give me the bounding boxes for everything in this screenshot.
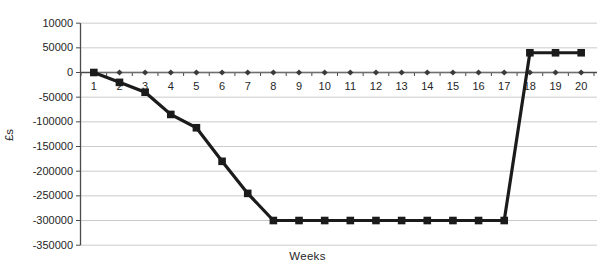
diamond-marker (219, 69, 225, 75)
svg-text:6: 6 (219, 80, 225, 92)
svg-text:4: 4 (168, 80, 174, 92)
svg-text:-350000: -350000 (33, 239, 73, 251)
chart-figure: 10000500000-50000-100000-150000-200000-2… (0, 0, 615, 278)
diamond-marker (475, 69, 481, 75)
x-axis-title: Weeks (0, 250, 615, 262)
svg-text:10000: 10000 (42, 17, 73, 29)
x-tick-labels: 1234567891011121314151617181920 (91, 80, 588, 92)
diamond-marker (373, 69, 379, 75)
square-marker (577, 49, 585, 57)
square-marker (347, 217, 355, 225)
svg-text:19: 19 (549, 80, 561, 92)
diamond-marker (450, 69, 456, 75)
diamond-marker (270, 69, 276, 75)
diamond-marker (142, 69, 148, 75)
svg-text:1: 1 (91, 80, 97, 92)
diamond-marker (424, 69, 430, 75)
square-marker (552, 49, 560, 57)
svg-text:-100000: -100000 (33, 115, 73, 127)
svg-text:12: 12 (370, 80, 382, 92)
svg-text:17: 17 (498, 80, 510, 92)
square-marker (116, 79, 124, 87)
diamond-marker (168, 69, 174, 75)
diamond-marker (322, 69, 328, 75)
svg-text:20: 20 (575, 80, 587, 92)
svg-text:16: 16 (472, 80, 484, 92)
svg-text:-250000: -250000 (33, 189, 73, 201)
svg-text:-300000: -300000 (33, 214, 73, 226)
square-marker (218, 158, 226, 166)
svg-text:14: 14 (421, 80, 433, 92)
square-marker (295, 217, 303, 225)
svg-text:8: 8 (270, 80, 276, 92)
square-marker (449, 217, 457, 225)
y-gridlines (81, 23, 597, 245)
diamond-marker (578, 69, 584, 75)
square-marker (141, 88, 149, 96)
y-axis-line (76, 23, 81, 245)
square-marker (167, 111, 175, 119)
diamond-marker (347, 69, 353, 75)
svg-text:0: 0 (67, 66, 73, 78)
square-marker (90, 69, 98, 77)
diamond-marker (296, 69, 302, 75)
square-marker (526, 49, 534, 57)
square-marker (500, 217, 508, 225)
diamond-marker (501, 69, 507, 75)
svg-text:-150000: -150000 (33, 140, 73, 152)
y-tick-labels: 10000500000-50000-100000-150000-200000-2… (33, 17, 73, 251)
svg-text:-200000: -200000 (33, 165, 73, 177)
square-marker (321, 217, 329, 225)
svg-text:9: 9 (296, 80, 302, 92)
square-marker (372, 217, 380, 225)
square-marker (270, 217, 278, 225)
square-marker (475, 217, 483, 225)
svg-text:5: 5 (193, 80, 199, 92)
square-marker (193, 124, 201, 132)
square-marker (423, 217, 431, 225)
svg-text:10: 10 (319, 80, 331, 92)
diamond-marker (399, 69, 405, 75)
svg-text:15: 15 (447, 80, 459, 92)
diamond-marker (193, 69, 199, 75)
svg-text:11: 11 (345, 80, 356, 92)
square-marker (244, 190, 252, 198)
svg-text:7: 7 (245, 80, 251, 92)
y-axis-title: £s (3, 80, 15, 190)
chart-canvas: 10000500000-50000-100000-150000-200000-2… (0, 0, 615, 278)
diamond-marker (552, 69, 558, 75)
diamond-marker (245, 69, 251, 75)
svg-text:-50000: -50000 (39, 91, 73, 103)
diamond-marker (116, 69, 122, 75)
svg-text:50000: 50000 (42, 41, 73, 53)
svg-text:13: 13 (396, 80, 408, 92)
square-marker (398, 217, 406, 225)
